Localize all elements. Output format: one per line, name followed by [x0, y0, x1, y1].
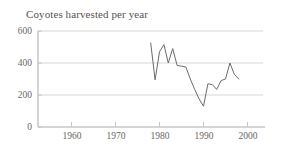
chart-figure: Coyotes harvested per year [0, 0, 302, 148]
y-tick-label-200: 200 [0, 90, 32, 100]
y-tick-label-0: 0 [0, 122, 32, 132]
x-tick-label-1960: 1960 [52, 131, 92, 141]
y-tick-label-400: 400 [0, 58, 32, 68]
y-gridlines [38, 31, 263, 95]
x-tick-label-1990: 1990 [184, 131, 224, 141]
x-tick-label-1970: 1970 [96, 131, 136, 141]
line-chart-plot [0, 0, 302, 148]
y-tick-label-600: 600 [0, 26, 32, 36]
data-series-line [151, 43, 239, 106]
x-tick-label-1980: 1980 [140, 131, 180, 141]
x-tick-label-2000: 2000 [228, 131, 268, 141]
y-axis-ticks [38, 31, 42, 127]
x-axis-ticks [72, 122, 248, 127]
